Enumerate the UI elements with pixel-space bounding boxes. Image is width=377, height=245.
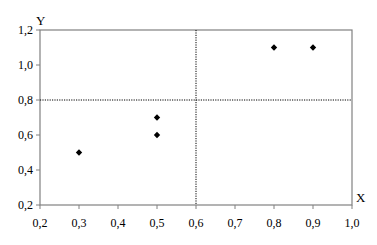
diamond-marker-icon [76, 149, 82, 155]
reference-lines [40, 30, 352, 205]
x-tick-label: 0,4 [111, 216, 126, 230]
y-tick-label: 0,2 [18, 198, 33, 212]
y-tick-label: 1,2 [18, 23, 33, 37]
x-tick-label: 0,9 [306, 216, 321, 230]
x-tick-label: 0,2 [33, 216, 48, 230]
x-axis-ticks: 0,20,30,40,50,60,70,80,91,0 [33, 205, 360, 230]
x-tick-label: 0,7 [228, 216, 243, 230]
scatter-chart: 0,20,30,40,50,60,70,80,91,0 0,20,40,60,8… [0, 0, 377, 245]
x-tick-label: 0,6 [189, 216, 204, 230]
x-tick-label: 0,3 [72, 216, 87, 230]
y-tick-label: 0,4 [18, 163, 33, 177]
diamond-marker-icon [310, 44, 316, 50]
x-tick-label: 0,5 [150, 216, 165, 230]
diamond-marker-icon [154, 114, 160, 120]
diamond-marker-icon [271, 44, 277, 50]
y-axis-ticks: 0,20,40,60,81,01,2 [18, 23, 40, 212]
y-tick-label: 0,6 [18, 128, 33, 142]
x-axis-title: X [356, 190, 366, 205]
diamond-marker-icon [154, 132, 160, 138]
y-tick-label: 1,0 [18, 58, 33, 72]
x-tick-label: 0,8 [267, 216, 282, 230]
x-tick-label: 1,0 [345, 216, 360, 230]
y-tick-label: 0,8 [18, 93, 33, 107]
y-axis-title: Y [36, 13, 46, 28]
